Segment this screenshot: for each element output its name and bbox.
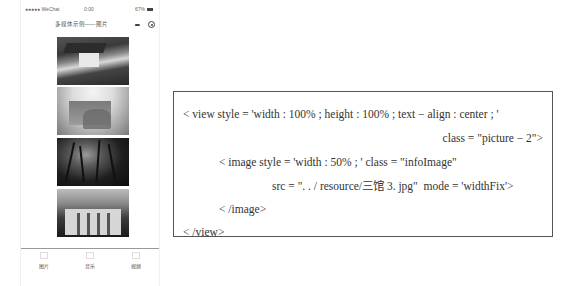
photo-detail <box>108 144 117 182</box>
library-facade-photo <box>57 189 129 237</box>
tab-label: 图片 <box>24 262 64 269</box>
photo-detail <box>97 213 100 235</box>
tall-trees-photo <box>57 138 129 186</box>
campus-house-photo <box>57 37 129 85</box>
tab-bar-divider <box>21 248 159 249</box>
code-listing: < view style = 'width : 100% ; height : … <box>173 91 553 237</box>
code-line: < view style = 'width : 100% ; height : … <box>183 107 499 121</box>
tab-video[interactable]: 视频 <box>116 252 156 272</box>
phone-screen: ●●●●● WeChat 0:00 67% 多媒体示例——图片 ••• 图片 <box>20 0 160 286</box>
target-circle-icon[interactable] <box>148 21 155 28</box>
code-line: src = ". . / resource/三馆 3. jpg" mode = … <box>272 179 514 193</box>
battery-icon <box>147 8 153 11</box>
page-title: 多媒体示例——图片 <box>21 20 141 28</box>
status-bar: ●●●●● WeChat 0:00 67% <box>21 6 159 16</box>
video-icon <box>132 252 140 259</box>
code-line: class = "picture − 2"> <box>443 131 543 145</box>
battery-indicator: 67% <box>135 6 153 12</box>
music-icon <box>86 252 94 259</box>
tab-label: 视频 <box>116 262 156 269</box>
photo-detail <box>65 209 121 235</box>
clock: 0:00 <box>84 6 94 12</box>
battery-percent: 67% <box>135 6 145 12</box>
code-line: < /view> <box>183 225 224 239</box>
photo-detail <box>63 43 107 53</box>
code-line: < image style = 'width : 50% ; ' class =… <box>219 155 457 169</box>
photo-detail <box>83 109 111 129</box>
photo-detail <box>96 140 101 182</box>
photo-detail <box>79 146 85 182</box>
more-icon[interactable]: ••• <box>135 21 139 28</box>
photo-detail <box>77 213 80 235</box>
photo-detail <box>87 213 90 235</box>
nav-bar: 多媒体示例——图片 ••• <box>21 17 159 35</box>
tab-label: 音乐 <box>70 262 110 269</box>
photo-detail <box>65 142 75 182</box>
carrier-label: ●●●●● WeChat <box>25 6 59 12</box>
code-line: < /image> <box>219 202 266 216</box>
photo-detail <box>79 53 99 67</box>
building-in-trees-photo <box>57 87 129 135</box>
photo-detail <box>107 213 110 235</box>
image-icon <box>40 252 48 259</box>
tab-music[interactable]: 音乐 <box>70 252 110 272</box>
tab-image[interactable]: 图片 <box>24 252 64 272</box>
